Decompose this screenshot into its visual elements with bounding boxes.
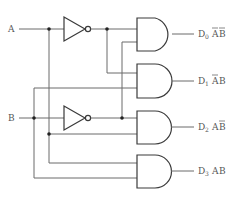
svg-text:2: 2 <box>205 126 209 133</box>
junction-b-bar <box>120 116 124 120</box>
and-gate-d0 <box>137 18 194 51</box>
input-b-label: B <box>8 113 15 123</box>
not-gate-b <box>64 106 91 130</box>
output-label-d0: D 0 A B <box>198 28 226 40</box>
wire-b-bar <box>91 42 137 118</box>
decoder-diagram: A B <box>0 0 241 197</box>
svg-text:B: B <box>219 76 226 86</box>
not-gate-a <box>64 17 91 41</box>
svg-text:A: A <box>211 29 219 39</box>
wire-b <box>19 88 137 178</box>
svg-text:B: B <box>219 122 226 132</box>
wire-a <box>19 29 137 163</box>
and-gate-d1 <box>137 64 194 98</box>
svg-text:A: A <box>211 166 219 176</box>
svg-text:A: A <box>211 76 219 86</box>
junction-a-lower <box>47 132 51 136</box>
input-a-label: A <box>7 24 15 34</box>
output-label-d3: D 3 A B <box>198 166 226 177</box>
wire-a-bar <box>91 29 137 73</box>
svg-text:1: 1 <box>205 80 209 87</box>
junction-a-bar <box>105 27 109 31</box>
junction-a <box>47 27 51 31</box>
output-label-d1: D 1 A B <box>198 75 226 87</box>
and-gate-d3 <box>137 155 194 188</box>
and-gate-d2 <box>137 111 194 144</box>
svg-text:A: A <box>211 122 219 132</box>
junction-b <box>32 116 36 120</box>
output-label-d2: D 2 A B <box>198 121 226 133</box>
svg-text:B: B <box>219 166 226 176</box>
svg-text:3: 3 <box>205 170 209 177</box>
svg-text:B: B <box>219 29 226 39</box>
svg-text:0: 0 <box>205 33 209 40</box>
